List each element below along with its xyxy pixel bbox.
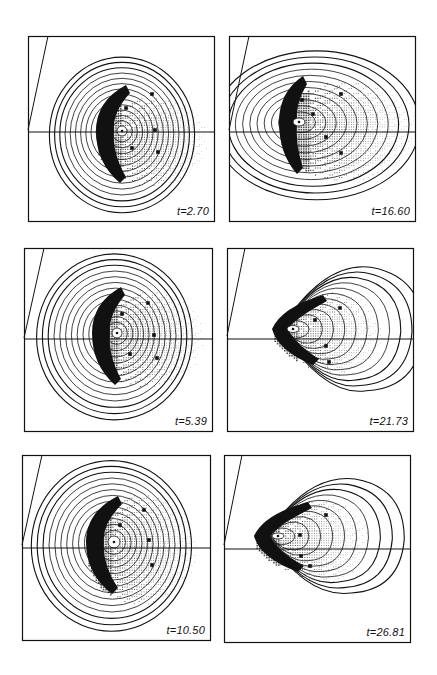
time-label: t=26.81 (367, 626, 405, 638)
time-label: t=2.70 (177, 205, 209, 217)
contour-plot (22, 455, 211, 641)
contour-plot (227, 248, 414, 432)
panel-t-26-81: t=26.81 (224, 455, 411, 643)
wedge-boundary-line (224, 455, 242, 545)
contour-plot (229, 36, 416, 222)
time-label: t=10.50 (167, 624, 205, 636)
time-label: t=5.39 (175, 415, 207, 427)
wedge-boundary-line (227, 248, 245, 336)
wedge-boundary-line (24, 248, 44, 338)
contour-plot (28, 36, 215, 222)
time-label: t=21.73 (370, 415, 408, 427)
panel-frame (25, 249, 213, 432)
wedge-boundary-line (28, 36, 48, 130)
panel-t-10-50: t=10.50 (22, 455, 211, 641)
panel-t-16-60: t=16.60 (229, 36, 416, 222)
panel-t-2-70: t=2.70 (28, 36, 215, 222)
contour-plot (24, 248, 213, 432)
contour-plot (224, 455, 411, 643)
panel-t-21-73: t=21.73 (227, 248, 414, 432)
panel-t-5-39: t=5.39 (24, 248, 213, 432)
time-label: t=16.60 (372, 205, 410, 217)
panel-frame (228, 249, 414, 432)
